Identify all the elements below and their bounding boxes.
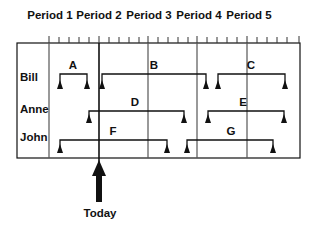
task-label-b: B (144, 59, 164, 71)
task-bar-b (102, 74, 206, 85)
task-bar-c (218, 74, 285, 85)
timeline-grid (0, 0, 310, 235)
task-label-c: C (241, 59, 261, 71)
person-bill: Bill (20, 71, 38, 83)
task-bar-a (60, 74, 87, 85)
today-arrow-icon (92, 160, 106, 202)
person-anne: Anne (20, 103, 49, 115)
task-label-e: E (233, 96, 253, 108)
task-bar-g (187, 140, 273, 152)
milestone-markers (57, 80, 288, 153)
task-label-d: D (125, 96, 145, 108)
task-label-g: G (221, 125, 241, 137)
task-label-a: A (63, 59, 83, 71)
person-john: John (20, 131, 47, 143)
today-label: Today (80, 207, 120, 219)
tick-marks (49, 36, 299, 43)
task-bar-f (60, 140, 167, 152)
task-bar-e (208, 111, 284, 122)
task-bar-d (89, 111, 184, 122)
task-label-f: F (103, 125, 123, 137)
